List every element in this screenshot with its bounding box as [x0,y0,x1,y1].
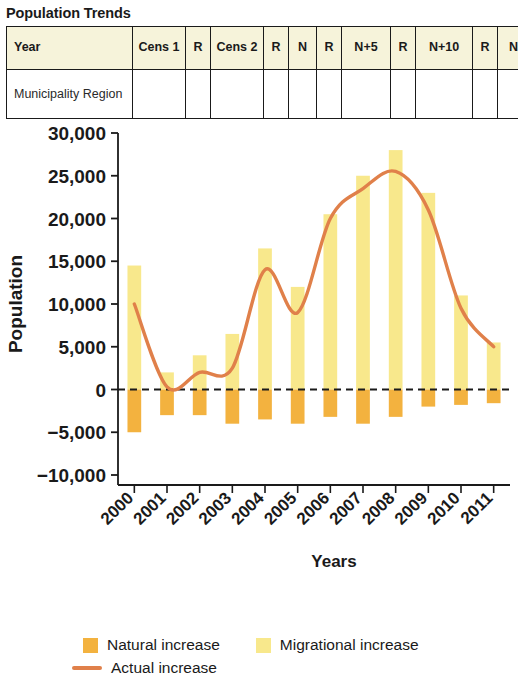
y-tick-label-0: 0 [95,380,106,401]
table-cell-n-plus-10[interactable] [416,70,473,119]
bar-migrational-2008 [389,150,403,389]
legend-label-migrational-increase: Migrational increase [280,636,419,654]
table-cell-n-plus-15[interactable] [498,70,518,119]
table-cell-n[interactable] [289,70,317,119]
table-header-r-5: R [473,27,498,70]
bar-natural-2003 [225,390,239,424]
x-tick-label-2005: 2005 [260,488,300,528]
bar-natural-2000 [127,390,141,433]
x-tick-label-2001: 2001 [130,488,170,528]
chart-svg: 30,00025,00020,00015,00010,0005,0000−5,0… [0,125,518,580]
table-header-r-4: R [391,27,416,70]
table-header-n-plus-15: N+15 [498,27,518,70]
x-tick-label-2007: 2007 [326,488,366,528]
x-tick-label-2009: 2009 [391,488,431,528]
table-header: Year Cens 1 R Cens 2 R N R N+5 R N+10 R … [7,27,518,70]
y-tick-label-5000: 5,000 [58,337,106,358]
population-table: Year Cens 1 R Cens 2 R N R N+5 R N+10 R … [6,26,518,119]
table-cell-cens-2[interactable] [211,70,264,119]
table-header-r-1: R [186,27,211,70]
table-cell-r-2[interactable] [264,70,289,119]
table-cell-r-1[interactable] [186,70,211,119]
y-tick-label-15000: 15,000 [48,251,106,272]
line-actual-increase [134,171,493,390]
bar-migrational-2007 [356,176,370,390]
y-tick-label-10000: 10,000 [48,294,106,315]
legend-item-actual-increase: Actual increase [72,659,217,677]
bar-natural-2002 [193,390,207,416]
y-tick-label--10000: −10,000 [37,465,106,486]
y-tick-label-25000: 25,000 [48,166,106,187]
table-cell-r-4[interactable] [391,70,416,119]
bar-natural-2007 [356,390,370,424]
bar-natural-2009 [421,390,435,407]
table-header-n: N [289,27,317,70]
bar-natural-2011 [487,390,501,404]
table-body: Municipality Region [7,70,518,119]
x-tick-label-2008: 2008 [358,488,398,528]
x-axis-title: Years [311,552,356,571]
x-tick-label-2000: 2000 [97,488,137,528]
legend-label-actual-increase: Actual increase [111,659,217,677]
table-header-n-plus-10: N+10 [416,27,473,70]
legend-item-migrational-increase: Migrational increase [256,636,419,654]
table-header-r-3: R [317,27,342,70]
bar-natural-2001 [160,390,174,416]
table-cell-r-5[interactable] [473,70,498,119]
y-axis-title: Population [5,255,26,353]
table-cell-cens-1[interactable] [133,70,186,119]
bar-natural-2004 [258,390,272,420]
table-header-cens-1: Cens 1 [133,27,186,70]
table-header-cens-2: Cens 2 [211,27,264,70]
x-tick-label-2004: 2004 [228,488,269,529]
bar-natural-2006 [323,390,337,417]
x-tick-label-2002: 2002 [162,488,202,528]
x-tick-label-2011: 2011 [457,488,497,528]
y-tick-label-30000: 30,000 [48,125,106,144]
table-cell-r-3[interactable] [317,70,342,119]
migrational-swatch-icon [256,638,271,653]
population-table-wrapper: Year Cens 1 R Cens 2 R N R N+5 R N+10 R … [6,26,511,119]
x-tick-label-2003: 2003 [195,488,235,528]
bar-migrational-2000 [127,266,141,390]
x-tick-label-2006: 2006 [293,488,333,528]
table-header-year: Year [7,27,133,70]
table-header-row: Year Cens 1 R Cens 2 R N R N+5 R N+10 R … [7,27,518,70]
y-tick-label--5000: −5,000 [47,422,106,443]
bar-natural-2005 [291,390,305,424]
bar-migrational-2006 [323,214,337,389]
table-row: Municipality Region [7,70,518,119]
table-cell-region-label: Municipality Region [7,70,133,119]
legend-item-natural-increase: Natural increase [83,636,220,654]
bar-migrational-2011 [487,342,501,389]
population-chart: 30,00025,00020,00015,00010,0005,0000−5,0… [0,125,518,580]
bar-natural-2010 [454,390,468,405]
page-title: Population Trends [6,5,518,21]
table-header-r-2: R [264,27,289,70]
chart-legend: Natural increase Migrational increase Ac… [0,636,518,677]
bar-natural-2008 [389,390,403,417]
y-tick-label-20000: 20,000 [48,209,106,230]
x-tick-label-2010: 2010 [424,488,464,528]
natural-swatch-icon [83,638,98,653]
table-header-n-plus-5: N+5 [342,27,391,70]
legend-label-natural-increase: Natural increase [107,636,220,654]
actual-line-swatch-icon [72,666,102,670]
table-cell-n-plus-5[interactable] [342,70,391,119]
